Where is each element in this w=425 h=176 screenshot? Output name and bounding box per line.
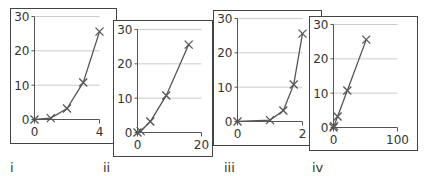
plot-area: 0102030020 xyxy=(114,21,214,158)
y-tick-label: 20 xyxy=(14,44,29,58)
y-tick-label: 20 xyxy=(313,52,328,66)
panel-label: iv xyxy=(312,160,323,175)
y-tick-label: 0 xyxy=(22,113,30,127)
x-tick-label: 0 xyxy=(134,138,142,152)
x-tick-label: 0 xyxy=(31,125,39,139)
data-point-marker xyxy=(63,105,71,113)
plot-area: 010203002 xyxy=(214,11,323,147)
y-tick-label: 10 xyxy=(117,92,132,106)
plot-area: 01020300100 xyxy=(310,17,419,152)
x-tick-label: 100 xyxy=(386,133,409,147)
y-tick-label: 0 xyxy=(125,126,133,140)
y-tick-label: 0 xyxy=(225,115,233,129)
chart-panel-iv: 01020300100 xyxy=(309,16,418,151)
series-line xyxy=(334,40,367,128)
data-point-marker xyxy=(146,118,154,126)
panel-label: i xyxy=(10,160,14,175)
data-point-marker xyxy=(334,113,342,121)
data-point-marker xyxy=(362,36,370,44)
x-tick-label: 0 xyxy=(330,133,338,147)
x-tick-label: 20 xyxy=(194,138,209,152)
chart-panel-iii: 010203002 xyxy=(213,10,322,146)
plot-area: 010203004 xyxy=(11,9,118,145)
chart-panel-ii: 0102030020 xyxy=(113,20,213,157)
data-point-marker xyxy=(185,41,193,49)
data-point-marker xyxy=(279,107,287,115)
series-line xyxy=(238,34,303,122)
y-tick-label: 20 xyxy=(217,46,232,60)
series-line xyxy=(138,45,189,133)
x-tick-label: 4 xyxy=(96,125,104,139)
chart-panel-i: 010203004 xyxy=(10,8,117,144)
y-tick-label: 10 xyxy=(313,87,328,101)
y-tick-label: 10 xyxy=(14,79,29,93)
y-tick-label: 30 xyxy=(117,23,132,37)
y-tick-label: 10 xyxy=(217,81,232,95)
x-tick-label: 0 xyxy=(234,127,242,141)
x-tick-label: 2 xyxy=(299,127,307,141)
y-tick-label: 0 xyxy=(321,121,329,135)
panel-label: ii xyxy=(103,160,110,175)
y-tick-label: 20 xyxy=(117,57,132,71)
data-point-marker xyxy=(96,28,104,36)
y-tick-label: 30 xyxy=(14,10,29,24)
panel-label: iii xyxy=(224,160,235,175)
y-tick-label: 30 xyxy=(217,12,232,26)
y-tick-label: 30 xyxy=(313,18,328,32)
series-line xyxy=(35,32,100,120)
